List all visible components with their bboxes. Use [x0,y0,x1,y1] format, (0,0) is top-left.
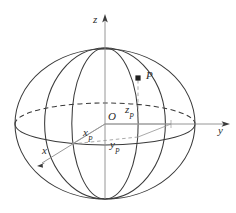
x-component-subscript: P [88,135,93,144]
origin-label: O [108,111,116,122]
point-p-marker [135,75,140,80]
diagram-canvas [0,0,236,213]
sphere-coordinate-diagram: z y x O P xP yP zP [0,0,236,213]
z-component-subscript: P [129,112,134,121]
y-axis-label: y [218,125,223,136]
y-component-subscript: P [115,147,120,156]
projection-edge-yfoot-to-foot [138,124,171,137]
y-component-label: yP [110,135,119,154]
x-axis-label: x [42,145,47,156]
z-axis-label: z [93,14,97,25]
point-p-label: P [146,70,153,81]
x-component-label: xP [83,123,92,142]
z-component-label: zP [125,100,134,119]
x-axis-arrowhead [37,163,45,168]
